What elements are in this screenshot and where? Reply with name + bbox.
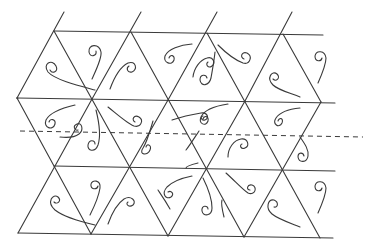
horizontal-edge	[54, 166, 335, 171]
horizontal-grid-lines	[17, 31, 335, 238]
rising-edge	[168, 12, 217, 100]
falling-edge	[283, 34, 321, 102]
horizontal-edge	[17, 98, 335, 103]
curl-motif	[202, 178, 212, 215]
curl-motif	[193, 58, 214, 77]
curl-motif	[88, 110, 100, 150]
curl-motif	[315, 182, 326, 213]
curl-motif	[90, 181, 100, 215]
horizontal-edge	[18, 233, 333, 238]
curl-motif	[186, 163, 198, 168]
curl-motif	[268, 200, 300, 227]
curl-motif	[270, 73, 300, 97]
rising-edge	[245, 12, 292, 101]
curl-motif	[89, 46, 101, 79]
curl-motif	[142, 121, 153, 154]
curl-motif	[45, 105, 75, 128]
rising-edge	[17, 12, 64, 98]
tessellation-diagram	[0, 0, 377, 252]
curl-motif	[164, 176, 192, 198]
curl-motif	[200, 52, 215, 85]
curl-motif	[108, 198, 134, 224]
curl-motif	[315, 52, 326, 83]
curl-motif	[226, 173, 255, 194]
curl-motif	[108, 107, 141, 126]
curl-motif	[60, 124, 82, 138]
curl-motif	[165, 44, 192, 63]
curl-motif	[275, 108, 300, 126]
curl-motif	[218, 45, 250, 63]
curl-motif	[200, 104, 228, 124]
rising-edge	[92, 12, 141, 99]
curl-motif	[46, 62, 95, 90]
curl-motif	[110, 62, 135, 89]
curl-motif	[222, 200, 224, 217]
curl-motif	[228, 139, 248, 157]
